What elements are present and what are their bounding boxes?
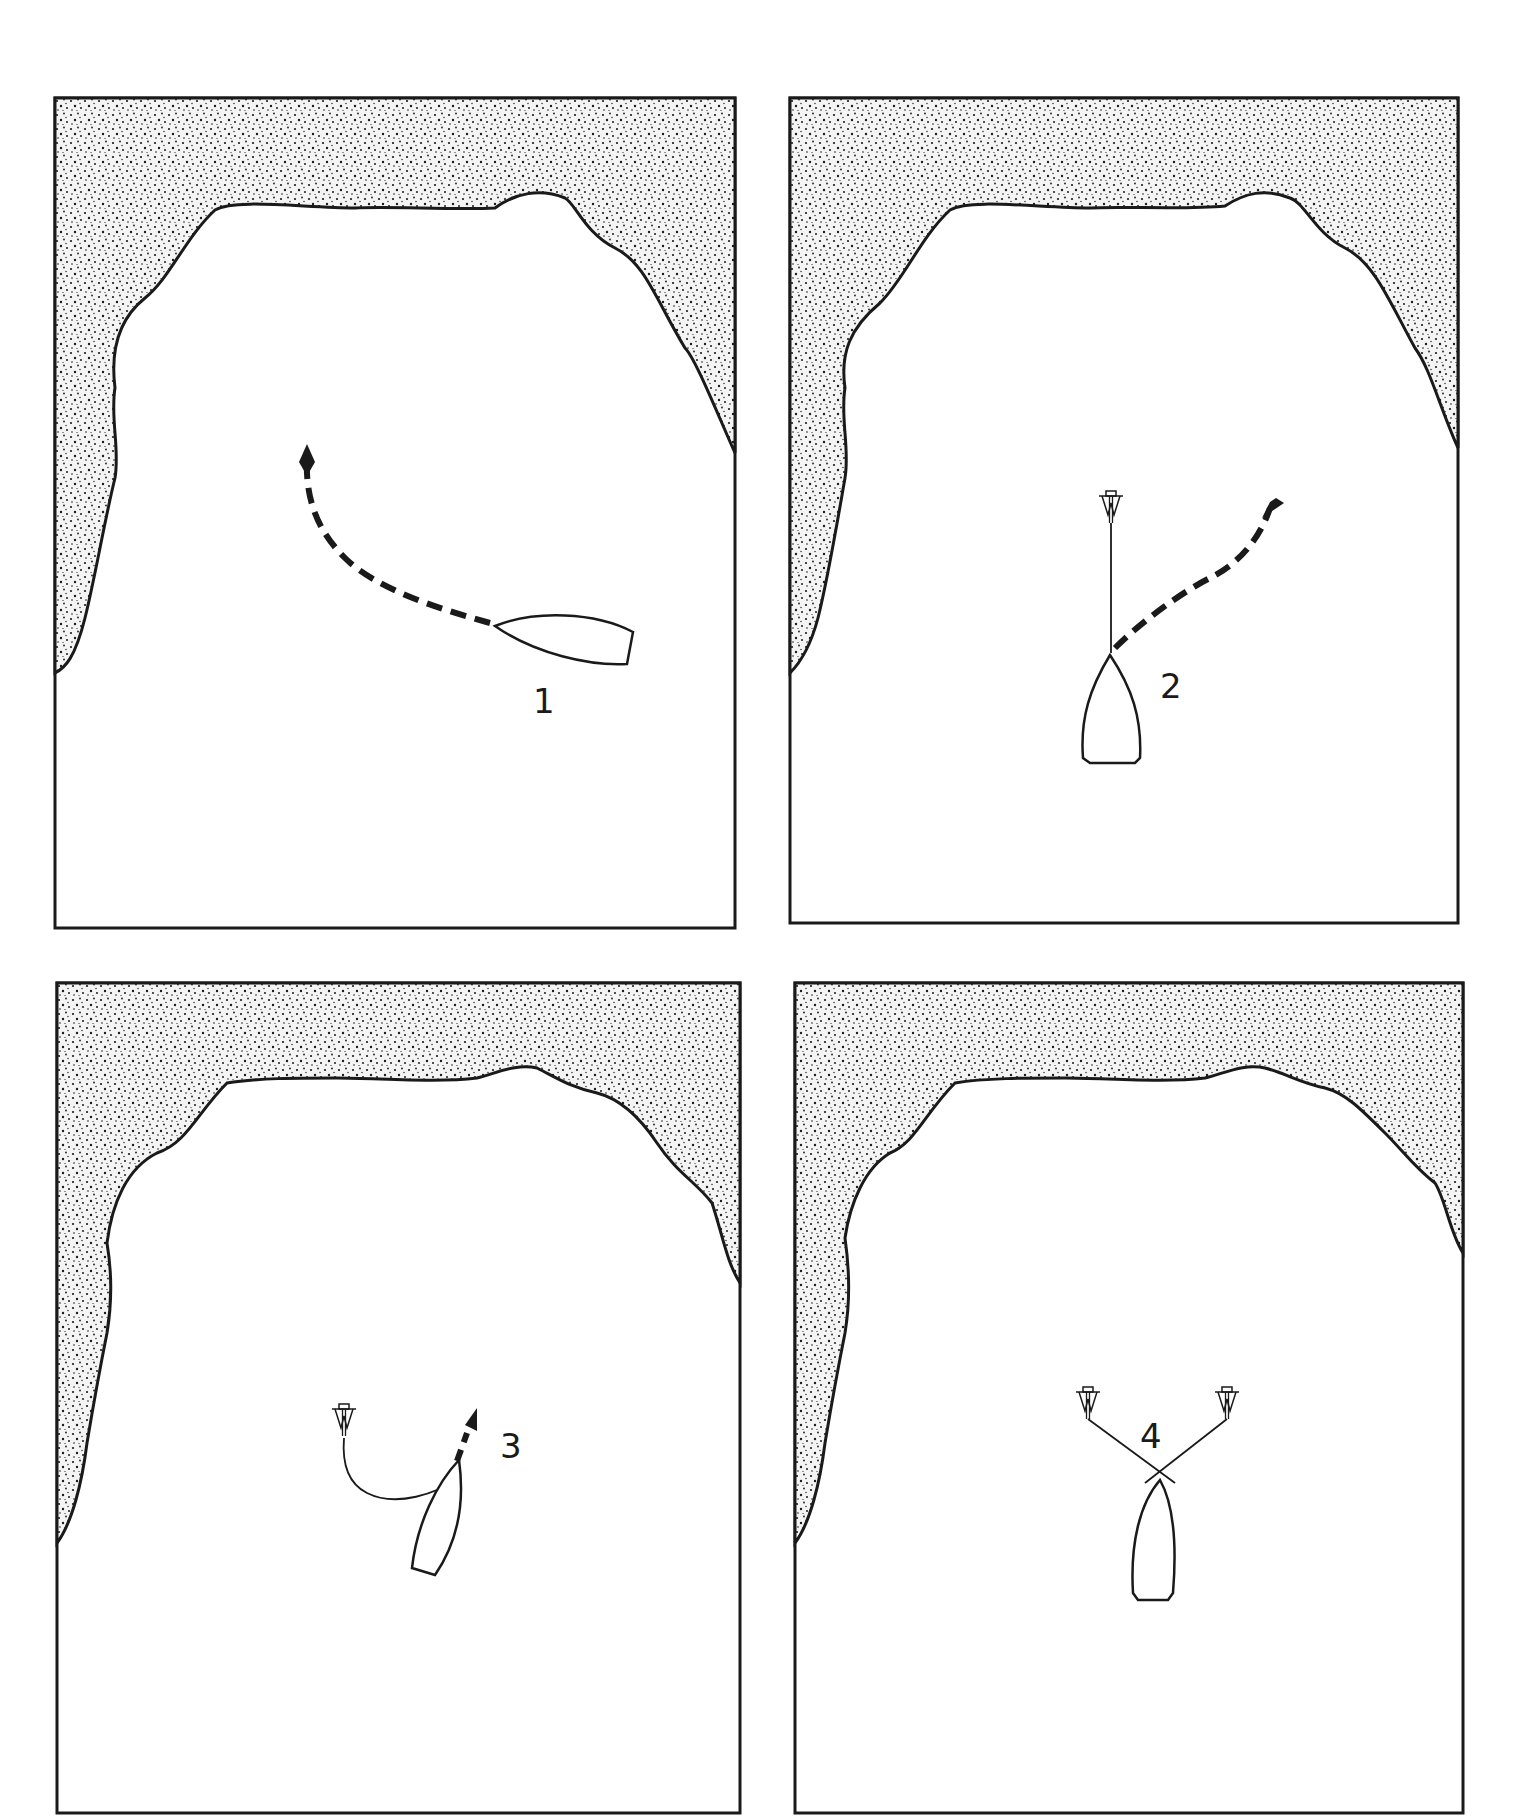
step-label: 1 xyxy=(533,681,555,721)
panel-step-4: 4 xyxy=(795,983,1463,1813)
bay-diagram-4: 4 xyxy=(795,983,1463,1813)
panel-step-1: 1 xyxy=(55,98,735,928)
step-label: 2 xyxy=(1160,666,1182,706)
bay-diagram-1: 1 xyxy=(55,98,735,928)
panel-step-2: 2 xyxy=(790,98,1458,923)
step-label: 4 xyxy=(1140,1416,1162,1456)
step-label: 3 xyxy=(500,1426,522,1466)
bay-diagram-2: 2 xyxy=(790,98,1458,923)
panel-step-3: 3 xyxy=(57,983,740,1813)
bay-diagram-3: 3 xyxy=(57,983,740,1813)
